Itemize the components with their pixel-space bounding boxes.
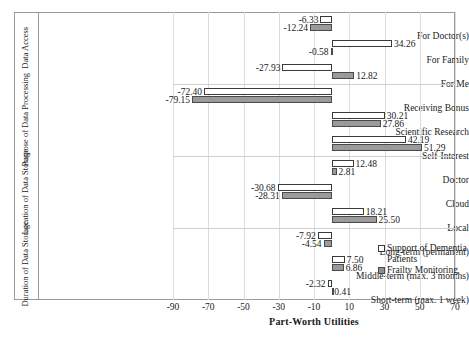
bar-support-of-dementia-patients-self-interest <box>332 136 406 143</box>
value-label-support-of-dementia-patients-short-term-max-1-week: -2.32 <box>306 279 326 289</box>
value-label-frailty-monitoring-for-family: -0.58 <box>309 47 329 57</box>
bar-frailty-monitoring-local <box>332 216 377 223</box>
value-label-frailty-monitoring-short-term-max-1-week: 0.41 <box>334 287 351 297</box>
value-label-support-of-dementia-patients-for-me: -27.93 <box>256 63 281 73</box>
group-label-location-of-data-storage: Location of Data Storage <box>14 156 38 228</box>
bar-support-of-dementia-patients-doctor <box>332 160 354 167</box>
x-tick-label-neg90: -90 <box>167 302 180 312</box>
group-separator-1 <box>173 84 455 85</box>
value-label-support-of-dementia-patients-for-family: 34.26 <box>394 39 415 49</box>
x-tick-label-neg10: -10 <box>308 302 321 312</box>
value-label-frailty-monitoring-cloud: -28.31 <box>255 191 280 201</box>
group-separator-2 <box>173 156 455 157</box>
bar-support-of-dementia-patients-for-doctor-s <box>320 16 331 23</box>
x-tick-label-neg50: -50 <box>237 302 250 312</box>
group-label-data-access-text: Data Access <box>21 27 31 69</box>
value-label-frailty-monitoring-doctor: 2.81 <box>339 167 356 177</box>
bar-frailty-monitoring-doctor <box>332 168 337 175</box>
bar-frailty-monitoring-for-family <box>331 48 333 55</box>
bar-support-of-dementia-patients-long-term-permanent <box>318 232 332 239</box>
value-label-frailty-monitoring-for-me: 12.82 <box>356 71 377 81</box>
bar-support-of-dementia-patients-short-term-max-1-week <box>328 280 332 287</box>
bar-support-of-dementia-patients-receiving-bonus <box>204 88 332 95</box>
group-separator-3 <box>173 228 455 229</box>
value-label-frailty-monitoring-receiving-bonus: -79.15 <box>166 95 191 105</box>
x-tick-label-neg70: -70 <box>202 302 215 312</box>
bar-frailty-monitoring-short-term-max-1-week <box>332 288 334 295</box>
bar-frailty-monitoring-receiving-bonus <box>192 96 332 103</box>
bar-support-of-dementia-patients-for-family <box>332 40 392 47</box>
group-label-duration-of-data-storage: Duration of Data Storage <box>14 228 38 300</box>
x-axis-title: Part-Worth Utilities <box>173 316 455 327</box>
bar-frailty-monitoring-for-doctor-s <box>310 24 332 31</box>
bar-frailty-monitoring-self-interest <box>332 144 422 151</box>
bar-frailty-monitoring-middle-term-max-3-months <box>332 264 344 271</box>
bar-support-of-dementia-patients-middle-term-max-3-months <box>332 256 345 263</box>
value-label-support-of-dementia-patients-doctor: 12.48 <box>356 159 377 169</box>
group-label-divider <box>38 12 39 300</box>
value-label-frailty-monitoring-long-term-permanent: -4.54 <box>302 239 322 249</box>
group-label-duration-of-data-storage-text: Duration of Data Storage <box>21 221 31 307</box>
group-label-purpose-of-data-processing: Purpose of Data Processing <box>14 84 38 156</box>
bar-frailty-monitoring-cloud <box>282 192 332 199</box>
legend-label-frailty-monitoring: Frailty Monitoring <box>387 265 458 276</box>
part-worth-utilities-chart: Data Access Purpose of Data Processing L… <box>0 0 469 354</box>
value-label-frailty-monitoring-self-interest: 51.29 <box>424 143 445 153</box>
value-label-frailty-monitoring-local: 25.50 <box>379 215 400 225</box>
value-label-frailty-monitoring-for-doctor-s: -12.24 <box>284 23 309 33</box>
bar-frailty-monitoring-scientific-research <box>332 120 381 127</box>
x-tick-label-50: 50 <box>415 302 425 312</box>
x-tick-label-30: 30 <box>380 302 390 312</box>
bar-frailty-monitoring-for-me <box>332 72 355 79</box>
chart-legend: Support of Dementia Patients Frailty Mon… <box>378 243 469 276</box>
legend-swatch-gray-icon <box>378 267 385 274</box>
x-tick-label-70: 70 <box>450 302 460 312</box>
value-label-frailty-monitoring-scientific-research: 27.86 <box>383 119 404 129</box>
x-tick-label-10: 10 <box>345 302 355 312</box>
bar-support-of-dementia-patients-cloud <box>278 184 332 191</box>
legend-label-support-of-dementia-patients: Support of Dementia Patients <box>387 243 469 265</box>
legend-item-frailty-monitoring: Frailty Monitoring <box>378 265 469 276</box>
legend-item-support-of-dementia-patients: Support of Dementia Patients <box>378 243 469 265</box>
bar-support-of-dementia-patients-scientific-research <box>332 112 385 119</box>
bar-support-of-dementia-patients-local <box>332 208 364 215</box>
legend-swatch-white-icon <box>378 245 385 252</box>
bar-support-of-dementia-patients-for-me <box>282 64 331 71</box>
value-label-frailty-monitoring-middle-term-max-3-months: 6.86 <box>346 263 363 273</box>
x-tick-label-neg30: -30 <box>272 302 285 312</box>
x-axis-ticks: -90-70-50-30-1010305070 <box>173 302 455 316</box>
bar-frailty-monitoring-long-term-permanent <box>324 240 332 247</box>
